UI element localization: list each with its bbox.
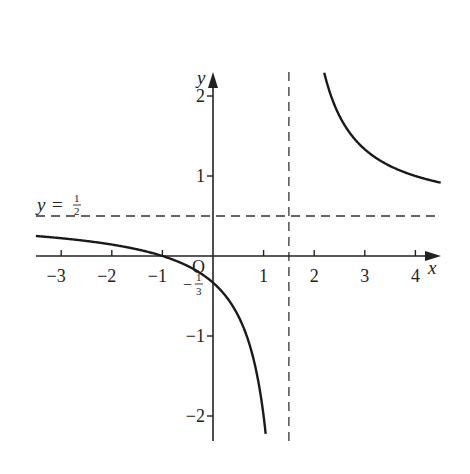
svg-text:1: 1 bbox=[196, 271, 202, 283]
x-tick-label: 1 bbox=[259, 266, 268, 286]
svg-text:−: − bbox=[183, 276, 192, 293]
x-tick-label: −1 bbox=[148, 266, 167, 286]
y-tick-label: 2 bbox=[196, 86, 205, 106]
y-tick-label: −2 bbox=[186, 406, 205, 426]
svg-text:=: = bbox=[52, 194, 63, 215]
x-tick-label: 2 bbox=[310, 266, 319, 286]
x-tick-label: 3 bbox=[360, 266, 369, 286]
asymptote-label: y = 1 2 bbox=[35, 192, 81, 217]
x-axis-label: x bbox=[427, 257, 437, 278]
y-axis-label: y bbox=[195, 67, 206, 88]
svg-text:1: 1 bbox=[74, 192, 80, 204]
y-axis-arrow-icon bbox=[208, 72, 218, 88]
right-branch-curve bbox=[324, 73, 441, 183]
function-graph: −3−2−11234 21−1−2 x y O − 1 3 y = 1 2 bbox=[0, 0, 470, 474]
svg-text:2: 2 bbox=[74, 205, 80, 217]
x-tick-label: −3 bbox=[47, 266, 66, 286]
svg-text:y: y bbox=[35, 194, 46, 215]
x-tick-label: 4 bbox=[411, 266, 420, 286]
y-tick-label: 1 bbox=[196, 166, 205, 186]
svg-text:3: 3 bbox=[196, 285, 202, 297]
x-tick-label: −2 bbox=[97, 266, 116, 286]
y-tick-label: −1 bbox=[186, 326, 205, 346]
